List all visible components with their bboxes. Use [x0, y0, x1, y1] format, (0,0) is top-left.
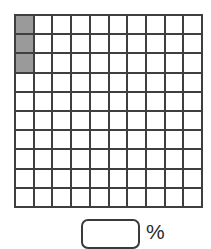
grid-cell-empty[interactable]: [91, 189, 110, 208]
grid-cell-empty[interactable]: [166, 16, 185, 35]
grid-cell-shaded[interactable]: [16, 35, 35, 54]
grid-cell-empty[interactable]: [72, 189, 91, 208]
grid-cell-empty[interactable]: [91, 150, 110, 169]
grid-cell-empty[interactable]: [128, 131, 147, 150]
grid-cell-empty[interactable]: [35, 16, 54, 35]
grid-cell-empty[interactable]: [91, 131, 110, 150]
grid-cell-empty[interactable]: [166, 150, 185, 169]
grid-cell-empty[interactable]: [35, 112, 54, 131]
grid-cell-empty[interactable]: [53, 131, 72, 150]
grid-cell-empty[interactable]: [128, 170, 147, 189]
grid-cell-empty[interactable]: [110, 189, 129, 208]
grid-cell-empty[interactable]: [184, 93, 203, 112]
grid-cell-empty[interactable]: [72, 131, 91, 150]
grid-cell-empty[interactable]: [91, 16, 110, 35]
grid-cell-empty[interactable]: [72, 93, 91, 112]
grid-cell-empty[interactable]: [16, 150, 35, 169]
grid-cell-empty[interactable]: [72, 54, 91, 73]
grid-cell-empty[interactable]: [110, 35, 129, 54]
grid-cell-empty[interactable]: [147, 35, 166, 54]
grid-cell-empty[interactable]: [166, 74, 185, 93]
grid-cell-empty[interactable]: [110, 93, 129, 112]
grid-cell-empty[interactable]: [110, 16, 129, 35]
grid-cell-empty[interactable]: [147, 170, 166, 189]
grid-cell-empty[interactable]: [53, 112, 72, 131]
grid-cell-empty[interactable]: [91, 93, 110, 112]
grid-cell-shaded[interactable]: [16, 54, 35, 73]
grid-cell-empty[interactable]: [110, 74, 129, 93]
grid-cell-empty[interactable]: [110, 131, 129, 150]
grid-cell-empty[interactable]: [128, 74, 147, 93]
grid-cell-empty[interactable]: [166, 131, 185, 150]
grid-cell-empty[interactable]: [128, 93, 147, 112]
grid-cell-empty[interactable]: [166, 93, 185, 112]
grid-cell-empty[interactable]: [35, 74, 54, 93]
grid-cell-empty[interactable]: [91, 74, 110, 93]
grid-cell-empty[interactable]: [91, 112, 110, 131]
grid-cell-empty[interactable]: [91, 54, 110, 73]
grid-cell-empty[interactable]: [184, 112, 203, 131]
grid-cell-empty[interactable]: [53, 54, 72, 73]
grid-cell-empty[interactable]: [53, 170, 72, 189]
grid-cell-empty[interactable]: [184, 189, 203, 208]
grid-cell-empty[interactable]: [128, 54, 147, 73]
percent-answer-input[interactable]: [81, 219, 140, 249]
grid-cell-empty[interactable]: [35, 54, 54, 73]
grid-cell-empty[interactable]: [166, 189, 185, 208]
grid-cell-empty[interactable]: [72, 112, 91, 131]
grid-cell-empty[interactable]: [35, 150, 54, 169]
grid-cell-empty[interactable]: [35, 131, 54, 150]
grid-cell-empty[interactable]: [72, 35, 91, 54]
grid-cell-empty[interactable]: [128, 189, 147, 208]
grid-cell-empty[interactable]: [147, 131, 166, 150]
grid-cell-empty[interactable]: [147, 112, 166, 131]
grid-cell-empty[interactable]: [128, 112, 147, 131]
grid-cell-empty[interactable]: [53, 150, 72, 169]
grid-cell-empty[interactable]: [147, 93, 166, 112]
grid-cell-empty[interactable]: [147, 54, 166, 73]
grid-cell-empty[interactable]: [53, 35, 72, 54]
grid-cell-empty[interactable]: [147, 16, 166, 35]
grid-cell-empty[interactable]: [35, 93, 54, 112]
grid-cell-empty[interactable]: [35, 170, 54, 189]
grid-cell-empty[interactable]: [53, 74, 72, 93]
grid-cell-empty[interactable]: [184, 170, 203, 189]
grid-cell-empty[interactable]: [91, 170, 110, 189]
grid-cell-empty[interactable]: [72, 150, 91, 169]
grid-cell-empty[interactable]: [72, 16, 91, 35]
grid-cell-empty[interactable]: [35, 35, 54, 54]
grid-cell-empty[interactable]: [53, 93, 72, 112]
grid-cell-empty[interactable]: [147, 189, 166, 208]
grid-cell-empty[interactable]: [166, 112, 185, 131]
grid-cell-empty[interactable]: [16, 131, 35, 150]
grid-cell-empty[interactable]: [110, 150, 129, 169]
grid-cell-empty[interactable]: [128, 150, 147, 169]
grid-cell-empty[interactable]: [91, 35, 110, 54]
grid-cell-empty[interactable]: [72, 74, 91, 93]
grid-cell-empty[interactable]: [184, 54, 203, 73]
grid-cell-empty[interactable]: [147, 74, 166, 93]
grid-cell-empty[interactable]: [16, 74, 35, 93]
grid-cell-empty[interactable]: [184, 35, 203, 54]
grid-cell-empty[interactable]: [184, 74, 203, 93]
grid-cell-shaded[interactable]: [16, 16, 35, 35]
grid-cell-empty[interactable]: [72, 170, 91, 189]
grid-cell-empty[interactable]: [128, 16, 147, 35]
grid-cell-empty[interactable]: [110, 54, 129, 73]
grid-cell-empty[interactable]: [184, 150, 203, 169]
grid-cell-empty[interactable]: [128, 35, 147, 54]
grid-cell-empty[interactable]: [53, 189, 72, 208]
grid-cell-empty[interactable]: [166, 35, 185, 54]
grid-cell-empty[interactable]: [16, 170, 35, 189]
grid-cell-empty[interactable]: [166, 54, 185, 73]
grid-cell-empty[interactable]: [110, 170, 129, 189]
grid-cell-empty[interactable]: [110, 112, 129, 131]
grid-cell-empty[interactable]: [53, 16, 72, 35]
grid-cell-empty[interactable]: [184, 16, 203, 35]
grid-cell-empty[interactable]: [147, 150, 166, 169]
grid-cell-empty[interactable]: [184, 131, 203, 150]
grid-cell-empty[interactable]: [16, 93, 35, 112]
grid-cell-empty[interactable]: [16, 189, 35, 208]
grid-cell-empty[interactable]: [35, 189, 54, 208]
grid-cell-empty[interactable]: [16, 112, 35, 131]
